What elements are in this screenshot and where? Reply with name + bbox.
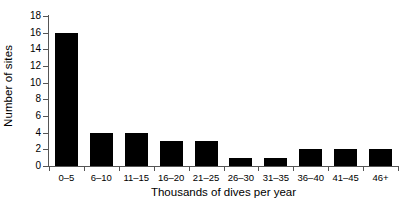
x-axis-tick-label: 46+ [363, 172, 398, 183]
x-axis-tick-label: 21–25 [189, 172, 224, 183]
x-axis-tick-label: 16–20 [154, 172, 189, 183]
y-axis-tick [43, 166, 48, 167]
y-axis-tick-label: 10 [1, 78, 41, 88]
y-axis-tick-label: 8 [1, 94, 41, 104]
y-axis-tick [43, 149, 48, 150]
bar [55, 33, 78, 166]
x-axis-tick-label: 36–40 [293, 172, 328, 183]
y-axis-tick-label: 6 [1, 111, 41, 121]
bar [264, 158, 287, 166]
bar [299, 149, 322, 166]
x-axis-tick [398, 167, 399, 171]
y-axis-tick-label: 14 [1, 44, 41, 54]
x-axis-tick-label: 41–45 [328, 172, 363, 183]
y-axis-tick-labels: 024681012141618 [0, 0, 41, 208]
x-axis-tick [84, 167, 85, 171]
y-axis-tick [43, 33, 48, 34]
y-axis-tick [43, 66, 48, 67]
x-axis-tick-label: 11–15 [119, 172, 154, 183]
y-axis-tick [43, 99, 48, 100]
y-axis-tick [43, 49, 48, 50]
y-axis-tick-label: 18 [1, 11, 41, 21]
x-axis-tick-label: 26–30 [224, 172, 259, 183]
y-axis-tick-label: 0 [1, 161, 41, 171]
y-axis-tick-label: 12 [1, 61, 41, 71]
bar [90, 133, 113, 166]
bar [369, 149, 392, 166]
x-axis-tick [363, 167, 364, 171]
x-axis-tick-label: 0–5 [49, 172, 84, 183]
bar [229, 158, 252, 166]
x-axis-tick [154, 167, 155, 171]
x-axis-tick-label: 6–10 [84, 172, 119, 183]
y-axis-tick [43, 83, 48, 84]
x-axis-tick [49, 167, 50, 171]
x-axis-tick [293, 167, 294, 171]
x-axis-tick [224, 167, 225, 171]
bar [160, 141, 183, 166]
x-axis-tick [119, 167, 120, 171]
x-axis-tick [258, 167, 259, 171]
y-axis-tick-label: 4 [1, 128, 41, 138]
x-axis-tick [189, 167, 190, 171]
x-axis-tick [328, 167, 329, 171]
y-axis-tick-label: 2 [1, 144, 41, 154]
bar [125, 133, 148, 166]
x-axis-title: Thousands of dives per year [49, 186, 398, 199]
y-axis-tick [43, 133, 48, 134]
y-axis-tick [43, 16, 48, 17]
bar-chart-figure: Number of sites 024681012141618 0–56–101… [0, 0, 412, 208]
bar [334, 149, 357, 166]
bars-layer [49, 16, 398, 166]
x-axis-tick-label: 31–35 [258, 172, 293, 183]
y-axis-tick [43, 116, 48, 117]
bar [195, 141, 218, 166]
y-axis-tick-label: 16 [1, 28, 41, 38]
